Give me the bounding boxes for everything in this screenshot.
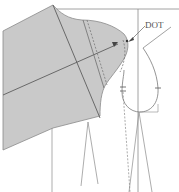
- pattern-piece: [3, 5, 128, 150]
- dot-marker: [126, 40, 128, 42]
- v-line-left: [81, 122, 88, 186]
- armhole-loop: [122, 48, 158, 112]
- fan-line-right: [139, 112, 152, 192]
- dot-label: DOT: [145, 20, 164, 30]
- v-line-right: [88, 122, 98, 184]
- dashed-vertical: [123, 92, 130, 192]
- pattern-diagram: DOT: [0, 0, 179, 192]
- fan-line-left: [129, 112, 139, 192]
- dot-arrow-icon: [128, 37, 134, 42]
- slant-guide-line: [143, 27, 171, 48]
- corner-mark: [140, 104, 158, 112]
